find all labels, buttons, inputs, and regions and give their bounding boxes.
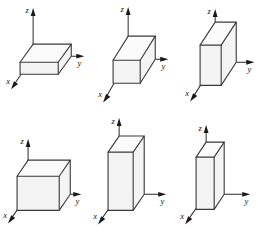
box-face-front xyxy=(200,45,221,85)
z-axis-arrowhead xyxy=(31,8,36,16)
panel-bottom-middle: z y x xyxy=(87,118,174,236)
z-axis-label: z xyxy=(120,4,125,14)
z-axis-arrowhead xyxy=(126,7,131,15)
z-axis-label: z xyxy=(197,124,202,134)
z-axis-arrowhead xyxy=(26,140,31,148)
y-axis-label: y xyxy=(243,197,248,207)
y-axis-label: y xyxy=(246,64,251,74)
diagram-bottom-right: z y x xyxy=(175,118,262,236)
y-axis-label: y xyxy=(161,61,166,71)
x-axis-arrowhead xyxy=(8,216,15,224)
panel-bottom-right: z y x xyxy=(175,118,262,236)
panel-grid: z y x z xyxy=(0,0,262,236)
z-axis-label: z xyxy=(19,137,24,147)
y-axis-label: y xyxy=(160,197,165,207)
x-axis-arrowhead xyxy=(98,217,105,225)
z-axis-label: z xyxy=(24,5,29,15)
panel-top-left: z y x xyxy=(0,0,87,118)
box-face-front xyxy=(20,62,58,74)
panel-top-middle: z y x xyxy=(87,0,174,118)
x-axis-label: x xyxy=(2,211,7,221)
z-axis-label: z xyxy=(111,116,116,126)
box-face-front xyxy=(113,60,140,83)
diagram-top-middle: z y x xyxy=(87,0,174,118)
z-axis-arrowhead xyxy=(117,118,122,126)
box-face-front xyxy=(196,158,214,210)
y-axis-label: y xyxy=(76,58,81,68)
x-axis-arrowhead xyxy=(11,81,18,89)
panel-bottom-left: z y x xyxy=(0,118,87,236)
x-axis-label: x xyxy=(179,212,184,222)
x-axis-label: x xyxy=(92,212,97,222)
x-axis-arrowhead xyxy=(185,217,192,225)
panel-top-right: z y x xyxy=(175,0,262,118)
z-axis-arrowhead xyxy=(212,9,217,17)
box-face-front xyxy=(17,177,59,211)
x-axis-label: x xyxy=(97,89,102,99)
diagram-bottom-left: z y x xyxy=(0,118,87,236)
figure-root: z y x z xyxy=(0,0,262,236)
x-axis-arrowhead xyxy=(190,93,197,101)
x-axis-arrowhead xyxy=(103,94,110,102)
x-axis-label: x xyxy=(184,88,189,98)
diagram-bottom-middle: z y x xyxy=(87,118,174,236)
box-face-front xyxy=(108,153,133,211)
z-axis-arrowhead xyxy=(203,125,208,133)
diagram-top-right: z y x xyxy=(175,0,262,118)
z-axis-label: z xyxy=(206,6,211,16)
x-axis-label: x xyxy=(5,76,10,86)
diagram-top-left: z y x xyxy=(0,0,87,118)
y-axis-label: y xyxy=(74,197,79,207)
